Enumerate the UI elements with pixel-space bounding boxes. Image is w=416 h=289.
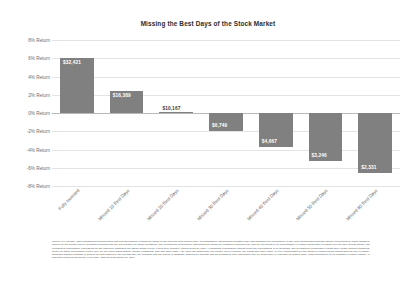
gridline <box>52 58 400 59</box>
y-axis: 8% Return6% Return4% Return2% Return0% R… <box>0 40 50 186</box>
bar-value-label: $32,421 <box>63 60 81 65</box>
x-axis-tick-label: Missed 20 Best Days <box>146 188 179 221</box>
bar-value-label: $3,246 <box>312 153 327 158</box>
x-axis-tick-label: Missed 30 Best Days <box>196 188 229 221</box>
y-axis-tick-label: -8% Return <box>4 184 50 189</box>
gridline <box>52 77 400 78</box>
x-axis-tick-label: Missed 10 Best Days <box>97 188 130 221</box>
y-axis-tick-label: 0% Return <box>4 111 50 116</box>
bar[interactable] <box>159 112 193 113</box>
x-axis-tick-label: Fully Invested <box>57 188 80 211</box>
gridline <box>52 168 400 169</box>
gridline <box>52 150 400 151</box>
x-axis-tick-label: Missed 40 Best Days <box>246 188 279 221</box>
y-axis-tick-label: 6% Return <box>4 56 50 61</box>
bar-value-label: $4,667 <box>262 139 277 144</box>
y-axis-tick-label: 4% Return <box>4 74 50 79</box>
page-title: Missing the Best Days of the Stock Marke… <box>0 20 416 27</box>
y-axis-tick-label: -4% Return <box>4 147 50 152</box>
chart-page: Missing the Best Days of the Stock Marke… <box>0 0 416 289</box>
y-axis-tick-label: -2% Return <box>4 129 50 134</box>
y-axis-tick-label: 8% Return <box>4 38 50 43</box>
x-axis-tick-label: Missed 50 Best Days <box>296 188 329 221</box>
gridline <box>52 40 400 41</box>
bar[interactable] <box>60 58 94 113</box>
y-axis-tick-label: -6% Return <box>4 165 50 170</box>
x-axis-tick-label: Missed 60 Best Days <box>345 188 378 221</box>
bar-value-label: $6,749 <box>212 123 227 128</box>
gridline <box>52 95 400 96</box>
plot-area: $32,421$16,389$10,167$6,749$4,667$3,246$… <box>52 40 400 186</box>
gridline <box>52 131 400 132</box>
bar-value-label: $10,167 <box>162 106 180 111</box>
bar-value-label: $2,331 <box>361 165 376 170</box>
bar[interactable] <box>358 113 392 173</box>
chart-footnote: Source: J.P. Morgan Asset Management ana… <box>52 240 370 260</box>
bar-value-label: $16,389 <box>113 93 131 98</box>
y-axis-tick-label: 2% Return <box>4 92 50 97</box>
x-axis: Fully InvestedMissed 10 Best DaysMissed … <box>52 186 400 242</box>
